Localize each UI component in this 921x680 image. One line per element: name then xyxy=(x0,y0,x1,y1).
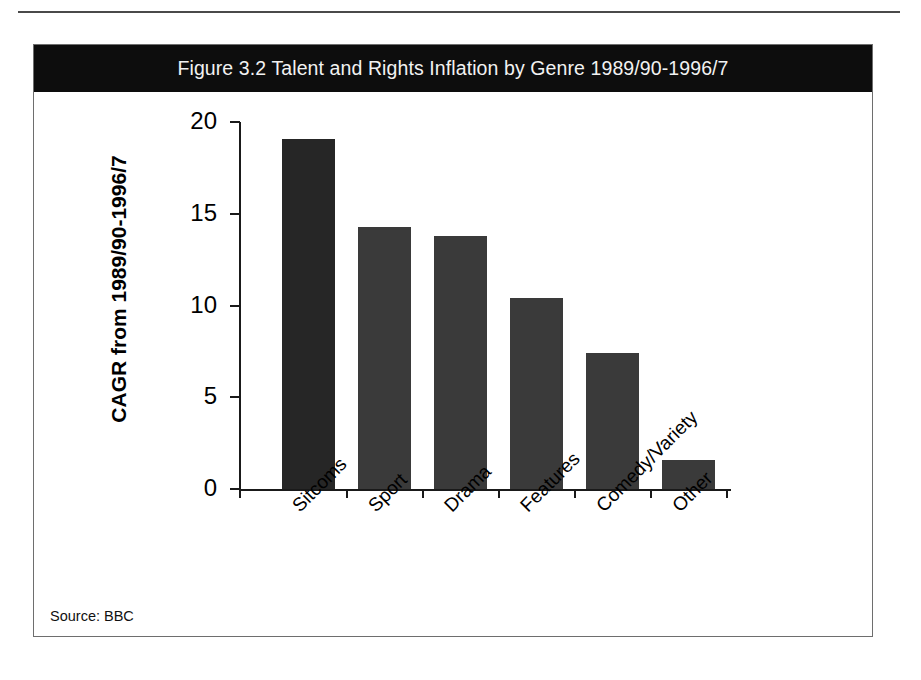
top-horizontal-rule xyxy=(18,11,900,13)
y-axis-tick-label: 0 xyxy=(204,474,217,502)
bar-sitcoms[interactable] xyxy=(282,139,335,489)
chart-title-band: Figure 3.2 Talent and Rights Inflation b… xyxy=(34,45,872,92)
y-axis-tick-label: 15 xyxy=(190,199,217,227)
y-axis-tick-label: 20 xyxy=(190,107,217,135)
y-axis-tick: 10 xyxy=(230,305,240,307)
y-axis-tick: 5 xyxy=(230,396,240,398)
x-axis-tick xyxy=(498,489,500,498)
figure-frame: Figure 3.2 Talent and Rights Inflation b… xyxy=(33,44,873,637)
y-axis-tick: 15 xyxy=(230,213,240,215)
bar-sport[interactable] xyxy=(358,227,411,489)
x-axis-tick xyxy=(726,489,728,498)
y-axis-tick-label: 10 xyxy=(190,291,217,319)
bar-drama[interactable] xyxy=(434,236,487,489)
x-axis-tick xyxy=(422,489,424,498)
plot-region: CAGR from 1989/90-1996/7 05101520 Sitcom… xyxy=(34,92,872,638)
x-axis-tick xyxy=(650,489,652,498)
x-axis-tick xyxy=(574,489,576,498)
y-axis-tick-label: 5 xyxy=(204,382,217,410)
y-axis-title: CAGR from 1989/90-1996/7 xyxy=(107,139,131,439)
x-axis-tick xyxy=(346,489,348,498)
chart-title: Figure 3.2 Talent and Rights Inflation b… xyxy=(177,57,728,80)
x-axis-tick xyxy=(239,489,241,498)
chart-axes: 05101520 SitcomsSportDramaFeaturesComedy… xyxy=(239,122,731,489)
y-axis-tick: 20 xyxy=(230,121,240,123)
source-note: Source: BBC xyxy=(50,608,134,624)
